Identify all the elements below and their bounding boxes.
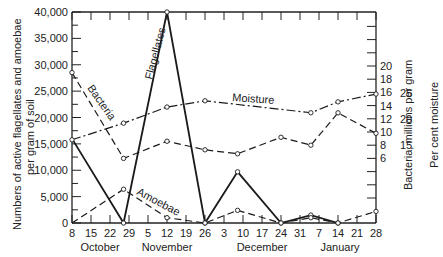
- data-point: [374, 92, 378, 96]
- bacteria-tick-label: 14: [380, 100, 392, 112]
- series-lines: [70, 10, 378, 225]
- data-point: [279, 221, 283, 225]
- x-tick-label: 17: [256, 227, 268, 239]
- data-point: [235, 170, 239, 174]
- left-tick-label: 5,000: [40, 191, 68, 203]
- month-label: January: [320, 241, 360, 253]
- data-point: [374, 209, 378, 213]
- x-tick-label: 10: [237, 227, 249, 239]
- data-point: [235, 152, 239, 156]
- x-tick-label: 8: [69, 227, 75, 239]
- flagellates-annotation: Flagellates: [142, 26, 167, 81]
- left-tick-label: 10,000: [34, 164, 68, 176]
- right-axis-bacteria-label: Bacteria, millions per gram: [402, 60, 414, 190]
- chart: 05,00010,00015,00020,00025,00030,00035,0…: [0, 0, 443, 257]
- left-axis-label: Numbers of active flagellates and amoeba…: [11, 18, 23, 230]
- bacteria-tick-label: 8: [380, 139, 386, 151]
- bacteria-tick-label: 10: [380, 126, 392, 138]
- left-tick-label: 25,000: [34, 85, 68, 97]
- data-point: [203, 221, 207, 225]
- data-point: [336, 100, 340, 104]
- month-label: November: [142, 241, 193, 253]
- x-tick-label: 14: [332, 227, 344, 239]
- bacteria-tick-label: 12: [380, 113, 392, 125]
- data-point: [165, 105, 169, 109]
- month-label: October: [80, 241, 119, 253]
- left-axis-label-line2: per gram of soil: [24, 99, 36, 175]
- left-tick-label: 40,000: [34, 6, 68, 18]
- data-point: [309, 216, 313, 220]
- data-point: [374, 131, 378, 135]
- bacteria-tick-label: 18: [380, 73, 392, 85]
- data-point: [121, 121, 125, 125]
- left-tick-label: 20,000: [34, 112, 68, 124]
- month-label: December: [237, 241, 288, 253]
- data-point: [70, 138, 74, 142]
- x-tick-label: 3: [221, 227, 227, 239]
- data-point: [336, 111, 340, 115]
- data-point: [121, 156, 125, 160]
- left-tick-label: 0: [62, 217, 68, 229]
- x-tick-label: 28: [370, 227, 382, 239]
- data-point: [165, 139, 169, 143]
- data-point: [279, 135, 283, 139]
- x-tick-label: 7: [316, 227, 322, 239]
- x-tick-label: 19: [180, 227, 192, 239]
- data-point: [235, 208, 239, 212]
- data-point: [121, 221, 125, 225]
- x-tick-label: 31: [294, 227, 306, 239]
- x-axis-ticks: 815222951219263101724317142128OctoberNov…: [69, 12, 382, 253]
- left-tick-label: 15,000: [34, 138, 68, 150]
- data-point: [309, 143, 313, 147]
- x-tick-label: 21: [351, 227, 363, 239]
- data-point: [121, 187, 125, 191]
- left-tick-label: 35,000: [34, 32, 68, 44]
- x-tick-label: 15: [85, 227, 97, 239]
- x-tick-label: 26: [199, 227, 211, 239]
- bacteria-tick-label: 6: [380, 152, 386, 164]
- bacteria-tick-label: 16: [380, 86, 392, 98]
- x-tick-label: 12: [161, 227, 173, 239]
- moisture-annotation: Moisture: [232, 91, 275, 106]
- bacteria-tick-label: 20: [380, 60, 392, 72]
- data-point: [165, 216, 169, 220]
- data-point: [203, 148, 207, 152]
- plot-frame: [72, 12, 376, 223]
- left-tick-label: 30,000: [34, 59, 68, 71]
- data-point: [165, 10, 169, 14]
- data-point: [309, 111, 313, 115]
- left-axis-ticks: 05,00010,00015,00020,00025,00030,00035,0…: [34, 6, 81, 229]
- x-tick-label: 22: [104, 227, 116, 239]
- x-tick-label: 5: [145, 227, 151, 239]
- data-point: [336, 221, 340, 225]
- right-axis-moisture-label: Per cent moisture: [428, 82, 440, 168]
- x-tick-label: 24: [275, 227, 287, 239]
- data-point: [70, 70, 74, 74]
- x-tick-label: 29: [123, 227, 135, 239]
- data-point: [203, 99, 207, 103]
